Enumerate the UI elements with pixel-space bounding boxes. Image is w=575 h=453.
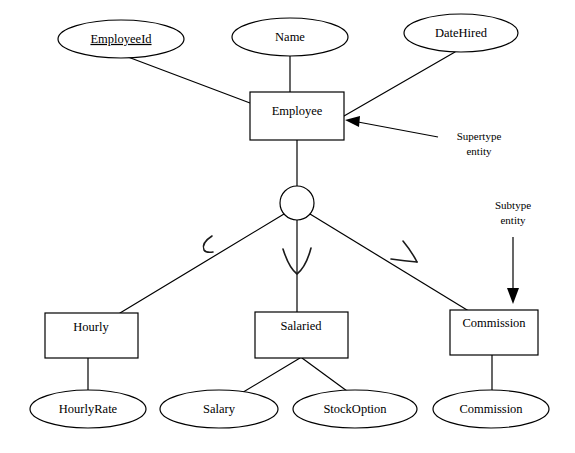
edge-salaried-salary: [240, 358, 300, 394]
subset-marker-commission-icon-b: [391, 259, 417, 262]
generalization-node[interactable]: [280, 186, 314, 220]
edge-employee-employeeid: [128, 57, 250, 103]
attribute-node-employeeid[interactable]: EmployeeId: [58, 20, 184, 58]
arrowhead-subtype-icon: [507, 288, 519, 304]
annotation-subtype-line1: Subtype: [495, 199, 531, 211]
entity-node-commission[interactable]: Commission: [450, 310, 538, 355]
entity-label-employee: Employee: [272, 104, 323, 118]
annotation-supertype-entity: Supertype entity: [345, 116, 501, 157]
entity-label-hourly: Hourly: [73, 320, 109, 334]
entity-node-hourly[interactable]: Hourly: [45, 313, 138, 358]
edge-generalization-commission: [310, 214, 472, 313]
attribute-label-commission: Commission: [459, 402, 523, 416]
annotation-subtype-line2: entity: [500, 214, 526, 226]
attribute-node-name[interactable]: Name: [232, 18, 348, 56]
subset-marker-hourly-icon: [203, 236, 213, 252]
attribute-label-datehired: DateHired: [435, 26, 488, 40]
attribute-node-commission[interactable]: Commission: [433, 390, 549, 428]
attribute-node-salary[interactable]: Salary: [160, 390, 278, 428]
attribute-label-employeeid: EmployeeId: [90, 32, 152, 46]
er-diagram-canvas: EmployeeId Name DateHired HourlyRate Sal…: [0, 0, 575, 453]
generalization-circle-icon: [280, 186, 314, 220]
edge-generalization-hourly: [120, 214, 284, 313]
entity-node-salaried[interactable]: Salaried: [255, 312, 348, 358]
annotation-supertype-line1: Supertype: [457, 130, 502, 142]
edge-employee-datehired: [344, 52, 455, 116]
entity-label-commission: Commission: [462, 316, 526, 330]
subtype-markers: [203, 236, 417, 274]
attribute-label-stockoption: StockOption: [323, 402, 387, 416]
annotation-subtype-entity: Subtype entity: [495, 199, 531, 304]
annotation-leader-supertype: [358, 122, 438, 137]
annotations: Supertype entity Subtype entity: [345, 116, 531, 304]
entity-label-salaried: Salaried: [281, 319, 323, 333]
attribute-node-hourlyrate[interactable]: HourlyRate: [30, 390, 146, 428]
entity-node-employee[interactable]: Employee: [250, 92, 344, 140]
subset-marker-commission-icon-a: [403, 241, 417, 262]
attribute-label-hourlyrate: HourlyRate: [59, 402, 118, 416]
attribute-label-salary: Salary: [203, 402, 236, 416]
edge-salaried-stockoption: [302, 358, 347, 391]
attribute-node-datehired[interactable]: DateHired: [404, 14, 518, 52]
annotation-supertype-line2: entity: [466, 145, 492, 157]
attribute-node-stockoption[interactable]: StockOption: [293, 390, 417, 428]
attribute-label-name: Name: [275, 30, 305, 44]
arrowhead-supertype-icon: [345, 116, 360, 127]
er-diagram-svg: EmployeeId Name DateHired HourlyRate Sal…: [0, 0, 575, 453]
